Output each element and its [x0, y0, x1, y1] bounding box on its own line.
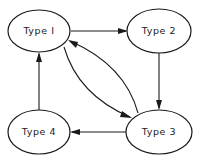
node-type3-label: Type 3 — [141, 126, 176, 137]
node-type3[interactable]: Type 3 — [126, 110, 192, 154]
arrowhead-type1-in-from-type4 — [36, 52, 42, 62]
arrowhead-type1-in-from-type3 — [68, 40, 78, 48]
node-type1[interactable]: Type I — [8, 10, 70, 52]
state-diagram: Type I Type 2 Type 3 Type 4 — [0, 0, 200, 165]
node-type2[interactable]: Type 2 — [127, 9, 191, 53]
node-type1-label: Type I — [22, 25, 54, 36]
node-type4[interactable]: Type 4 — [8, 110, 70, 154]
edge-type1-to-type3 — [64, 47, 130, 117]
arrowhead-type3-in-from-type2 — [156, 100, 162, 110]
arrowhead-type3-in-from-type1 — [120, 111, 132, 118]
node-type4-label: Type 4 — [21, 126, 56, 137]
arrowhead-type4-in — [70, 129, 80, 135]
node-type2-label: Type 2 — [141, 25, 176, 36]
